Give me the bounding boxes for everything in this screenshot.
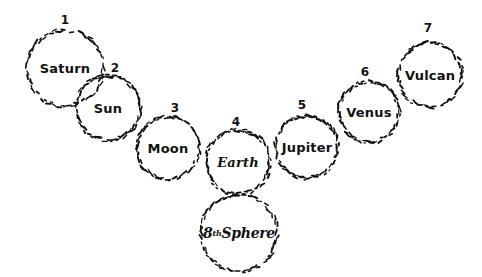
sphere-number-saturn: 1 xyxy=(56,14,74,26)
sphere-number-earth: 4 xyxy=(227,116,245,128)
sphere-label-venus: Venus xyxy=(339,82,399,142)
sphere-label-sun: Sun xyxy=(76,76,140,140)
sphere-node-vulcan[interactable]: Vulcan xyxy=(398,43,462,107)
sphere-node-sun[interactable]: Sun xyxy=(76,76,140,140)
sphere-node-eighth-sphere[interactable]: 8th Sphere xyxy=(201,195,277,271)
sphere-number-vulcan: 7 xyxy=(419,22,437,34)
sphere-label-eighth-sphere: 8th Sphere xyxy=(201,195,277,271)
sphere-number-jupiter: 5 xyxy=(293,99,311,111)
sphere-number-venus: 6 xyxy=(356,66,374,78)
sphere-number-moon: 3 xyxy=(166,102,184,114)
sphere-number-sun: 2 xyxy=(106,62,124,74)
sphere-node-moon[interactable]: Moon xyxy=(137,117,199,179)
sphere-node-venus[interactable]: Venus xyxy=(339,82,399,142)
sphere-node-earth[interactable]: Earth xyxy=(206,130,270,194)
sphere-label-vulcan: Vulcan xyxy=(398,43,462,107)
sphere-label-moon: Moon xyxy=(137,117,199,179)
sphere-label-jupiter: Jupiter xyxy=(276,116,338,178)
sphere-label-earth: Earth xyxy=(206,130,270,194)
sphere-node-jupiter[interactable]: Jupiter xyxy=(276,116,338,178)
diagram-canvas: Saturn1Sun2Moon3Earth4Jupiter5Venus6Vulc… xyxy=(0,0,482,277)
